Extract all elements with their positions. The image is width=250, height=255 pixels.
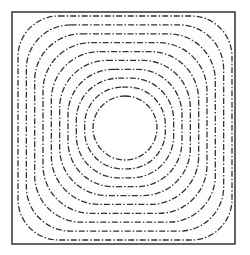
contour-diagram <box>0 0 250 255</box>
contour-line <box>93 96 157 160</box>
contour-line <box>76 78 173 178</box>
contour-line <box>60 60 191 195</box>
contour-line <box>18 16 232 240</box>
contour-line <box>26 25 223 231</box>
contour-line <box>85 87 166 169</box>
contour-line <box>35 34 216 222</box>
contour-lines <box>18 16 232 240</box>
